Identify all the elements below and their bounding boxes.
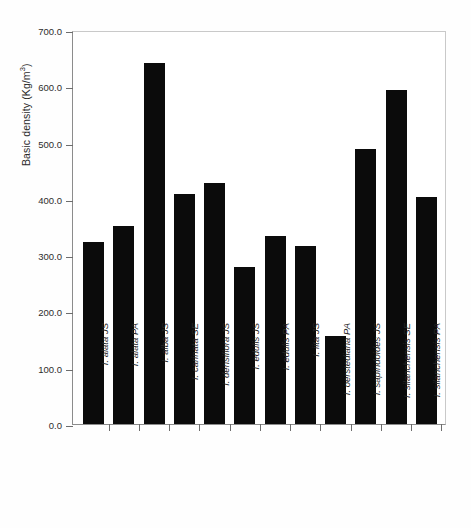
y-axis-tick-label: 700.0	[38, 26, 62, 37]
y-axis-tick: 600.0	[66, 88, 73, 89]
y-axis-tick: 700.0	[66, 32, 73, 33]
y-axis-title-superscript: 3	[18, 67, 27, 71]
y-axis-title-tail: )	[20, 63, 32, 67]
y-axis-title: Basic density (Kg/m3)	[18, 6, 34, 166]
y-axis-tick-label: 300.0	[38, 251, 62, 262]
y-axis-tick: 100.0	[66, 370, 73, 371]
x-axis-tick-label: I. densiflora JS	[219, 323, 232, 433]
x-axis-tick-label: I. edulis PA	[279, 323, 292, 433]
y-axis-tick-label: 200.0	[38, 307, 62, 318]
y-axis-tick: 200.0	[66, 313, 73, 314]
y-axis-title-text: Basic density (Kg/m	[20, 71, 32, 166]
y-axis-tick-label: 600.0	[38, 82, 62, 93]
y-axis-tick-label: 400.0	[38, 195, 62, 206]
y-axis-tick: 300.0	[66, 257, 73, 258]
x-axis-tick-label: I. alba JS	[158, 323, 171, 433]
x-axis-tick-label: I. carinata SE	[188, 323, 201, 433]
y-axis-tick-label: 0.0	[49, 420, 62, 431]
y-axis-tick-label: 500.0	[38, 139, 62, 150]
x-axis-tick-label: I. iita JS	[309, 323, 322, 433]
y-axis-tick: 500.0	[66, 145, 73, 146]
x-axis-tick-label: I. silanchensis PA	[430, 323, 443, 433]
x-axis-tick-label: I. edulis JS	[249, 323, 262, 433]
x-axis-tick-label: I. oerstediana PA	[340, 323, 353, 433]
y-axis-tick: 0.0	[66, 426, 73, 427]
x-axis-tick-label: I. sapindoides JS	[370, 323, 383, 433]
y-axis-tick-label: 100.0	[38, 364, 62, 375]
bar-chart-figure: Basic density (Kg/m3) 700.0600.0500.0400…	[0, 0, 471, 528]
x-axis-tick-label: I. alata PA	[128, 323, 141, 433]
y-axis-tick: 400.0	[66, 201, 73, 202]
x-axis-tick-label: I. silanchensis SE	[400, 323, 413, 433]
x-axis-tick-label: I. alata JS	[98, 323, 111, 433]
